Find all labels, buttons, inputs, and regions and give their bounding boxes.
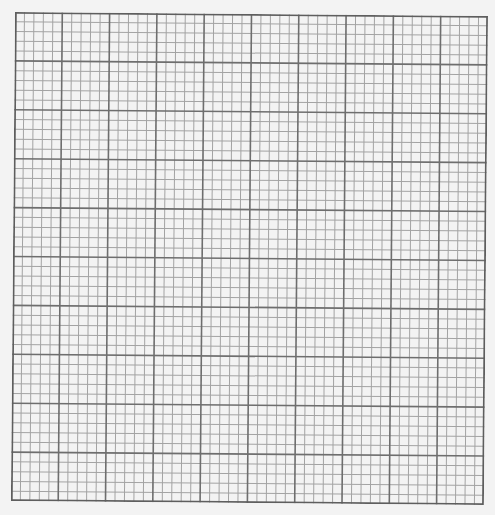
grid-lines [11,12,488,505]
graph-paper-grid [11,12,488,505]
page [0,0,495,515]
